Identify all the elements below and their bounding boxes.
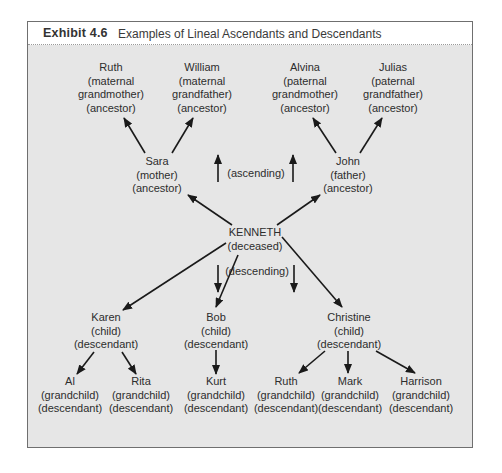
node-bob-child: Bob (child) (descendant) <box>184 311 248 352</box>
node-ruth-grandchild: Ruth (grandchild) (descendant) <box>254 375 318 416</box>
arrow-sara-to-ruth <box>124 118 145 153</box>
node-alvina-paternal-grandmother: Alvina (paternal grandmother) (ancestor) <box>272 61 338 115</box>
arrow-john-to-julias <box>360 118 382 153</box>
node-william-maternal-grandfather: William (maternal grandfather) (ancestor… <box>172 61 232 115</box>
arrow-john-to-alvina <box>313 118 336 153</box>
node-ruth-maternal-grandmother: Ruth (maternal grandmother) (ancestor) <box>78 61 144 115</box>
arrow-christine-to-harrison <box>376 351 415 373</box>
arrow-kenneth-to-john <box>277 195 320 225</box>
node-john-father: John (father) (ancestor) <box>323 155 373 196</box>
node-sara-mother: Sara (mother) (ancestor) <box>132 155 182 196</box>
arrow-sara-to-william <box>172 118 193 153</box>
node-mark-grandchild: Mark (grandchild) (descendant) <box>318 375 382 416</box>
arrow-kenneth-to-christine <box>282 237 342 307</box>
node-kurt-grandchild: Kurt (grandchild) (descendant) <box>184 375 248 416</box>
node-harrison-grandchild: Harrison (grandchild) (descendant) <box>389 375 453 416</box>
arrow-kenneth-to-bob <box>216 255 238 307</box>
node-christine-child: Christine (child) (descendant) <box>317 311 381 352</box>
descending-label: (descending) <box>225 265 289 277</box>
ascending-label: (ascending) <box>227 167 284 179</box>
arrow-kenneth-to-sara <box>188 195 232 225</box>
node-rita-grandchild: Rita (grandchild) (descendant) <box>109 375 173 416</box>
node-julias-paternal-grandfather: Julias (paternal grandfather) (ancestor) <box>363 61 423 115</box>
arrow-karen-to-rita <box>122 352 136 374</box>
arrow-kenneth-to-karen <box>123 243 226 310</box>
arrow-karen-to-al <box>77 352 94 374</box>
node-karen-child: Karen (child) (descendant) <box>74 311 138 352</box>
node-al-grandchild: Al (grandchild) (descendant) <box>38 375 102 416</box>
family-tree-diagram: Ruth (maternal grandmother) (ancestor) W… <box>0 0 502 473</box>
arrow-christine-to-ruth <box>299 351 325 373</box>
node-kenneth-deceased: KENNETH (deceased) <box>227 226 282 253</box>
